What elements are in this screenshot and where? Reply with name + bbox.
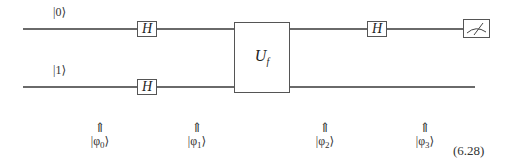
state-marker-phi2: ⇑ |φ2⟩: [305, 121, 345, 152]
state-ket-phi1: |φ1⟩: [177, 134, 217, 152]
state-ket-phi2: |φ2⟩: [305, 134, 345, 152]
state-marker-phi3: ⇑ |φ3⟩: [405, 121, 445, 152]
up-arrow-icon: ⇑: [405, 121, 445, 134]
input-state-label-bottom: |1⟩: [53, 63, 66, 78]
oracle-gate-label: Uf: [255, 47, 269, 67]
state-marker-phi1: ⇑ |φ1⟩: [177, 121, 217, 152]
hadamard-gate-bottom-1: H: [137, 79, 157, 95]
input-state-label-top: |0⟩: [53, 5, 66, 20]
meter-gauge-icon: [464, 20, 489, 37]
oracle-gate-uf: Uf: [234, 22, 290, 93]
equation-number: (6.28): [453, 143, 484, 159]
measurement-meter-icon: [463, 19, 490, 38]
hadamard-gate-top-1: H: [137, 21, 157, 37]
up-arrow-icon: ⇑: [177, 121, 217, 134]
up-arrow-icon: ⇑: [80, 121, 120, 134]
up-arrow-icon: ⇑: [305, 121, 345, 134]
hadamard-gate-top-2: H: [367, 21, 387, 37]
state-ket-phi0: |φ0⟩: [80, 134, 120, 152]
state-ket-phi3: |φ3⟩: [405, 134, 445, 152]
state-marker-phi0: ⇑ |φ0⟩: [80, 121, 120, 152]
